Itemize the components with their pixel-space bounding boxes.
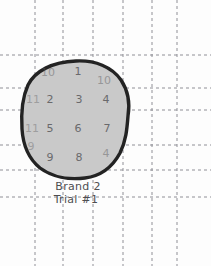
cell-number: 10 <box>97 74 111 87</box>
cell-number: 5 <box>47 122 54 135</box>
graph-paper-diagram: 10 1 10 11 2 3 4 11 5 6 7 9 9 8 4 Brand … <box>0 0 211 266</box>
sample-label-trial: Trial #1 <box>54 193 99 206</box>
cell-number: 6 <box>75 122 82 135</box>
cell-number: 8 <box>76 151 83 164</box>
annotation-layer: 10 1 10 11 2 3 4 11 5 6 7 9 9 8 4 Brand … <box>0 0 211 266</box>
cell-number: 2 <box>47 93 54 106</box>
cell-number: 3 <box>76 93 83 106</box>
cell-number: 4 <box>103 93 110 106</box>
cell-number: 9 <box>28 140 35 153</box>
sample-label-brand: Brand 2 <box>55 180 100 193</box>
cell-number: 4 <box>103 147 110 160</box>
cell-number: 9 <box>47 151 54 164</box>
cell-number: 11 <box>26 93 40 106</box>
cell-number: 1 <box>75 65 82 78</box>
cell-number: 11 <box>25 122 39 135</box>
cell-number: 7 <box>104 122 111 135</box>
cell-number: 10 <box>41 66 55 79</box>
